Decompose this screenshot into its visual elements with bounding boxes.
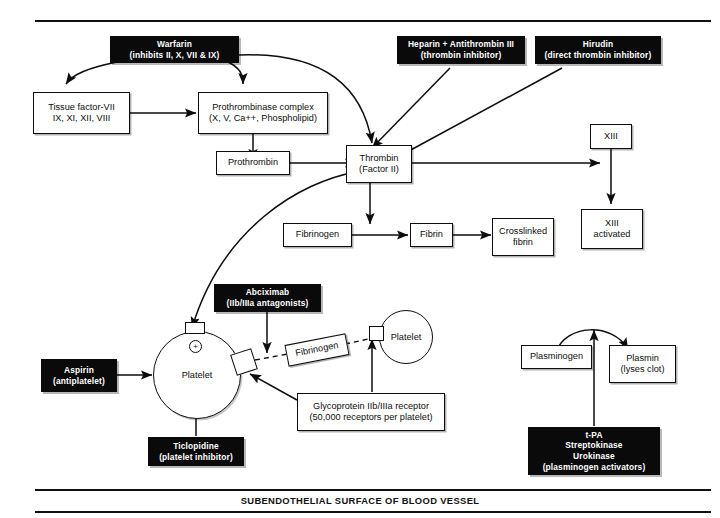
heparin-line2: (thrombin inhibitor): [421, 50, 502, 61]
fibrin-label: Fibrin: [420, 229, 443, 240]
prothrombinase-line1: Prothrombinase complex: [212, 102, 314, 113]
xiii-activated-line2: activated: [594, 229, 631, 240]
node-fibrin: Fibrin: [410, 223, 453, 247]
hirudin-line1: Hirudin: [583, 39, 613, 50]
hirudin-line2: (direct thrombin inhibitor): [545, 50, 652, 61]
node-gp-receptor: Glycoprotein IIb/IIIa receptor (50,000 r…: [297, 393, 445, 431]
node-fibrinogen: Fibrinogen: [283, 223, 352, 247]
plasmin-line1: Plasmin: [626, 353, 659, 364]
platelet-right: Platelet: [379, 310, 433, 364]
node-aspirin: Aspirin (antiplatelet): [41, 359, 117, 392]
crosslinked-line2: fibrin: [513, 237, 533, 248]
arrow-heparin-to-thrombin: [372, 68, 450, 148]
warfarin-line2: (inhibits II, X, VII & IX): [130, 50, 220, 61]
prothrombinase-line2: (X, V, Ca++, Phospholipid): [209, 113, 317, 124]
ticlopidine-line1: Ticlopidine: [173, 441, 219, 452]
tissue-factor-line1: Tissue factor-VII: [48, 102, 115, 113]
fibrinogen-bridge-label: Fibrinogen: [295, 340, 340, 359]
caption-top-rule: [35, 489, 711, 491]
aspirin-line1: Aspirin: [64, 365, 94, 376]
caption-bottom-rule: [35, 511, 711, 513]
platelet-left-top-receptor: [185, 322, 205, 334]
plasminogen-label: Plasminogen: [530, 351, 583, 362]
fibrinogen-label: Fibrinogen: [296, 229, 339, 240]
node-tissue-factor: Tissue factor-VII IX, XI, XII, VIII: [33, 92, 130, 134]
node-ticlopidine: Ticlopidine (platelet inhibitor): [148, 437, 244, 466]
node-abciximab: Abciximab (IIb/IIIa antagonists): [214, 284, 321, 312]
node-hirudin: Hirudin (direct thrombin inhibitor): [535, 36, 661, 64]
arrow-warfarin-to-tissue-factor: [66, 62, 117, 84]
aspirin-line2: (antiplatelet): [53, 376, 105, 387]
prothrombin-label: Prothrombin: [228, 157, 278, 168]
activators-line1: t-PA: [585, 429, 602, 440]
node-xiii: XIII: [590, 124, 632, 149]
top-rule: [35, 20, 711, 22]
bridge-dash-left: [255, 354, 288, 360]
xiii-activated-line1: XIII: [605, 218, 619, 229]
activators-line4: (plasminogen activators): [543, 462, 646, 473]
gp-receptor-line2: (50,000 receptors per platelet): [309, 412, 432, 423]
activators-line3: Urokinase: [573, 451, 615, 462]
plus-glyph: +: [193, 343, 198, 351]
heparin-line1: Heparin + Antithrombin III: [408, 39, 514, 50]
node-prothrombin: Prothrombin: [216, 151, 290, 175]
ticlopidine-line2: (platelet inhibitor): [159, 452, 233, 463]
node-warfarin: Warfarin (inhibits II, X, VII & IX): [110, 36, 239, 63]
platelet-right-label: Platelet: [391, 332, 422, 342]
platelet-activation-plus-icon: +: [189, 340, 202, 353]
gp-receptor-line1: Glycoprotein IIb/IIIa receptor: [313, 401, 429, 412]
node-plasminogen: Plasminogen: [521, 345, 592, 369]
node-prothrombinase-complex: Prothrombinase complex (X, V, Ca++, Phos…: [198, 92, 328, 134]
platelet-right-receptor: [369, 326, 384, 341]
crosslinked-line1: Crosslinked: [499, 226, 547, 237]
thrombin-line2: (Factor II): [359, 164, 399, 175]
warfarin-line1: Warfarin: [157, 39, 192, 50]
node-plasmin: Plasmin (lyses clot): [609, 345, 676, 383]
figure-caption: SUBENDOTHELIAL SURFACE OF BLOOD VESSEL: [0, 495, 720, 506]
xiii-label: XIII: [604, 131, 618, 142]
arrow-hirudin-to-thrombin: [396, 68, 562, 158]
abciximab-line1: Abciximab: [246, 287, 290, 298]
arrow-gp-to-left-platelet: [250, 374, 297, 400]
abciximab-line2: (IIb/IIIa antagonists): [227, 298, 309, 309]
plasmin-line2: (lyses clot): [621, 364, 665, 375]
node-heparin-antithrombin: Heparin + Antithrombin III (thrombin inh…: [397, 36, 525, 64]
figure-canvas: Warfarin (inhibits II, X, VII & IX) Hepa…: [0, 0, 720, 518]
node-thrombin: Thrombin (Factor II): [346, 145, 412, 183]
node-crosslinked-fibrin: Crosslinked fibrin: [492, 218, 554, 256]
arrow-warfarin-to-prothrombinase: [228, 62, 243, 84]
tissue-factor-line2: IX, XI, XII, VIII: [53, 113, 111, 124]
activators-line2: Streptokinase: [565, 440, 622, 451]
thrombin-line1: Thrombin: [360, 153, 399, 164]
node-plasminogen-activators: t-PA Streptokinase Urokinase (plasminoge…: [528, 427, 660, 475]
platelet-left-label: Platelet: [182, 370, 213, 380]
node-xiii-activated: XIII activated: [581, 209, 643, 249]
